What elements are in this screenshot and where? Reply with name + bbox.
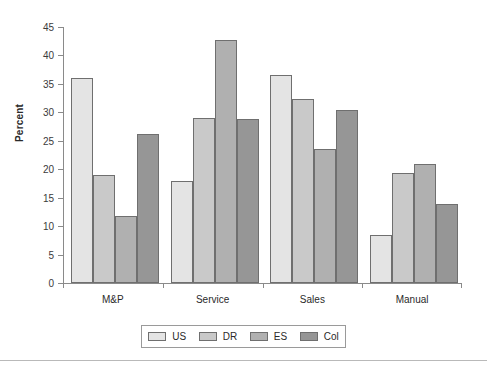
- legend-label: Col: [324, 331, 339, 342]
- legend-label: ES: [274, 331, 287, 342]
- bar[interactable]: [171, 181, 193, 283]
- legend-swatch: [250, 332, 268, 341]
- bar[interactable]: [215, 40, 237, 283]
- y-axis-title: Percent: [14, 104, 25, 142]
- bar[interactable]: [237, 119, 259, 283]
- x-tick-mark: [362, 283, 363, 288]
- legend-item[interactable]: DR: [199, 331, 237, 342]
- bar[interactable]: [71, 78, 93, 283]
- legend-label: DR: [223, 331, 237, 342]
- legend: USDRESCol: [141, 325, 346, 348]
- legend-swatch: [199, 332, 217, 341]
- x-tick-label: Manual: [396, 294, 429, 305]
- x-tick-label: Service: [196, 294, 229, 305]
- y-tick-label: 0: [48, 278, 54, 289]
- bar[interactable]: [93, 175, 115, 283]
- y-tick-label: 15: [43, 192, 54, 203]
- bar[interactable]: [270, 75, 292, 283]
- bar[interactable]: [193, 118, 215, 283]
- x-tick-mark: [63, 283, 64, 288]
- plot-area: 454035302520151050 M&PServiceSalesManual: [63, 27, 462, 283]
- legend-item[interactable]: ES: [250, 331, 287, 342]
- bar-cluster: [270, 27, 358, 283]
- legend-label: US: [172, 331, 186, 342]
- legend-item[interactable]: Col: [300, 331, 339, 342]
- legend-swatch: [300, 332, 318, 341]
- y-tick-label: 20: [43, 164, 54, 175]
- bar-cluster: [71, 27, 159, 283]
- bar-group: Sales: [263, 27, 363, 283]
- bar[interactable]: [336, 110, 358, 283]
- bar-group: Manual: [362, 27, 462, 283]
- bar-cluster: [171, 27, 259, 283]
- x-tick-label: Sales: [300, 294, 325, 305]
- bar[interactable]: [314, 149, 336, 283]
- y-tick-label: 30: [43, 107, 54, 118]
- x-tick-label: M&P: [102, 294, 124, 305]
- y-tick-label: 25: [43, 135, 54, 146]
- y-tick-label: 40: [43, 50, 54, 61]
- x-tick-mark: [263, 283, 264, 288]
- bar-cluster: [370, 27, 458, 283]
- y-tick-label: 10: [43, 221, 54, 232]
- bar[interactable]: [370, 235, 392, 283]
- bar[interactable]: [392, 173, 414, 283]
- bar-group: M&P: [63, 27, 163, 283]
- bar[interactable]: [115, 216, 137, 283]
- bar-chart: Percent 454035302520151050 M&PServiceSal…: [0, 0, 487, 371]
- bar[interactable]: [292, 99, 314, 283]
- legend-swatch: [148, 332, 166, 341]
- y-tick-label: 35: [43, 78, 54, 89]
- x-tick-mark: [163, 283, 164, 288]
- y-tick-label: 45: [43, 22, 54, 33]
- legend-item[interactable]: US: [148, 331, 186, 342]
- bar[interactable]: [414, 164, 436, 283]
- bar-group: Service: [163, 27, 263, 283]
- bar[interactable]: [436, 204, 458, 283]
- x-axis-end-tick: [461, 283, 462, 288]
- bar[interactable]: [137, 134, 159, 283]
- y-tick-label: 5: [48, 249, 54, 260]
- footer-divider: [0, 360, 487, 361]
